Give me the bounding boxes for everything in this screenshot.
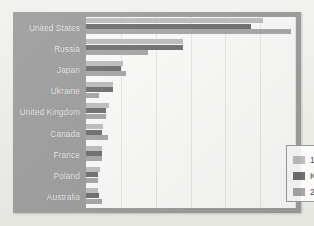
legend-swatch-icon bbox=[293, 156, 305, 164]
category-label: Canada bbox=[10, 123, 80, 144]
category-label: Australia bbox=[10, 187, 80, 208]
bar-2007 bbox=[86, 29, 291, 34]
bar-kyoto-target bbox=[86, 108, 106, 113]
legend-label: Kyoto target bbox=[310, 171, 314, 181]
legend-label: 2007 bbox=[310, 187, 314, 197]
bar-1990 bbox=[86, 124, 103, 129]
bar-kyoto-target bbox=[86, 130, 102, 135]
page-frame: United StatesRussiaJapanUkraineUnited Ki… bbox=[0, 0, 314, 226]
bar-kyoto-target bbox=[86, 193, 99, 198]
bar-group bbox=[86, 187, 295, 208]
bar-group bbox=[86, 144, 295, 165]
category-axis: United StatesRussiaJapanUkraineUnited Ki… bbox=[13, 17, 83, 208]
legend-item: Kyoto target bbox=[293, 168, 314, 184]
category-label: France bbox=[10, 144, 80, 165]
category-label: United Kingdom bbox=[10, 102, 80, 123]
bar-groups bbox=[86, 17, 295, 208]
plot-area: 1990Kyoto target2007 bbox=[86, 17, 295, 208]
legend-item: 2007 bbox=[293, 184, 314, 200]
bar-kyoto-target bbox=[86, 45, 183, 50]
bar-2007 bbox=[86, 156, 102, 161]
category-label: Russia bbox=[10, 38, 80, 59]
bar-2007 bbox=[86, 199, 102, 204]
bar-kyoto-target bbox=[86, 87, 113, 92]
bar-1990 bbox=[86, 188, 98, 193]
bar-2007 bbox=[86, 178, 98, 183]
bar-kyoto-target bbox=[86, 24, 251, 29]
bar-group bbox=[86, 38, 295, 59]
bar-1990 bbox=[86, 61, 123, 66]
bar-kyoto-target bbox=[86, 66, 121, 71]
legend: 1990Kyoto target2007 bbox=[286, 145, 314, 202]
bar-group bbox=[86, 17, 295, 38]
bar-group bbox=[86, 81, 295, 102]
category-label: Poland bbox=[10, 166, 80, 187]
bar-1990 bbox=[86, 167, 100, 172]
bar-1990 bbox=[86, 146, 102, 151]
bar-2007 bbox=[86, 93, 99, 98]
bar-1990 bbox=[86, 103, 109, 108]
category-label: Ukraine bbox=[10, 81, 80, 102]
bar-kyoto-target bbox=[86, 172, 98, 177]
bar-2007 bbox=[86, 71, 126, 76]
bar-1990 bbox=[86, 82, 113, 87]
legend-swatch-icon bbox=[293, 172, 305, 180]
legend-swatch-icon bbox=[293, 188, 305, 196]
bar-1990 bbox=[86, 18, 263, 23]
legend-label: 1990 bbox=[310, 155, 314, 165]
bar-group bbox=[86, 102, 295, 123]
bar-group bbox=[86, 123, 295, 144]
bar-2007 bbox=[86, 50, 148, 55]
category-label: United States bbox=[10, 17, 80, 38]
chart-panel: United StatesRussiaJapanUkraineUnited Ki… bbox=[13, 12, 301, 213]
category-label: Japan bbox=[10, 59, 80, 80]
legend-item: 1990 bbox=[293, 152, 314, 168]
bar-2007 bbox=[86, 135, 108, 140]
bar-kyoto-target bbox=[86, 151, 102, 156]
bar-group bbox=[86, 59, 295, 80]
bar-group bbox=[86, 166, 295, 187]
bar-1990 bbox=[86, 39, 183, 44]
bar-2007 bbox=[86, 114, 106, 119]
